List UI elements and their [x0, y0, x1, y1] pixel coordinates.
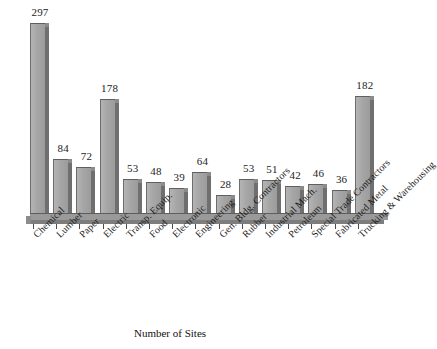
bar-front-face	[76, 167, 91, 213]
bar[interactable]	[332, 190, 355, 213]
bar-top-face	[231, 195, 235, 199]
bar-side-face	[184, 192, 188, 213]
bar-front-face	[308, 184, 323, 213]
bar-slot: 297	[30, 8, 53, 213]
bar-front-face	[146, 182, 161, 213]
bar-front-face	[30, 23, 45, 213]
bar-slot: 39	[169, 8, 192, 213]
bar[interactable]	[146, 182, 169, 213]
bar-front-face	[332, 190, 347, 213]
bar-value-label: 72	[70, 150, 102, 162]
bar-side-face	[323, 188, 327, 213]
x-axis-tick	[219, 224, 220, 229]
bar-value-label: 64	[186, 155, 218, 167]
bar-slot: 53	[239, 8, 262, 213]
bar[interactable]	[262, 180, 285, 213]
plot-area: 297847217853483964285351424636182	[30, 8, 388, 213]
bar-front-face	[239, 179, 254, 213]
bar[interactable]	[308, 184, 331, 213]
bar-side-face	[347, 194, 351, 213]
bar-side-face	[277, 184, 281, 213]
bar-value-label: 297	[24, 6, 56, 18]
bar-front-face	[262, 180, 277, 213]
bar-top-face	[347, 190, 351, 194]
bar[interactable]	[30, 23, 53, 213]
bar[interactable]	[285, 186, 308, 213]
bar-side-face	[91, 171, 95, 213]
bar-top-face	[138, 179, 142, 183]
bar-side-face	[68, 163, 72, 213]
bar-side-face	[45, 27, 49, 213]
bar-top-face	[300, 186, 304, 190]
bar-top-face	[184, 188, 188, 192]
bar[interactable]	[123, 179, 146, 213]
x-axis-tick	[79, 224, 80, 229]
x-axis-tick	[358, 224, 359, 229]
bar-top-face	[91, 167, 95, 171]
x-axis-tick	[195, 224, 196, 229]
axis-base-left-cap	[26, 216, 31, 224]
bar-slot: 36	[332, 8, 355, 213]
bar-top-face	[254, 179, 258, 183]
bar-top-face	[45, 23, 49, 27]
bar-side-face	[161, 186, 165, 213]
bar-front-face	[285, 186, 300, 213]
x-axis-tick	[335, 224, 336, 229]
bar-side-face	[300, 190, 304, 213]
bar-front-face	[53, 159, 68, 213]
bar-slot: 28	[216, 8, 239, 213]
axis-base-top	[30, 213, 388, 220]
bar-side-face	[254, 183, 258, 213]
bar-front-face	[100, 99, 115, 213]
x-axis-tick	[103, 224, 104, 229]
bar-side-face	[231, 199, 235, 213]
bar-value-label: 39	[163, 171, 195, 183]
x-axis-tick	[149, 224, 150, 229]
bar-top-face	[370, 96, 374, 100]
bar[interactable]	[216, 195, 239, 213]
x-axis-tick	[265, 224, 266, 229]
bar-slot: 182	[355, 8, 378, 213]
bar-top-face	[115, 99, 119, 103]
bar-front-face	[192, 172, 207, 213]
bar-slot: 178	[100, 8, 123, 213]
bar-side-face	[115, 103, 119, 213]
bar-side-face	[370, 100, 374, 213]
bar-front-face	[355, 96, 370, 213]
x-axis-tick	[172, 224, 173, 229]
bar-slot: 84	[53, 8, 76, 213]
bar-top-face	[207, 172, 211, 176]
bar-slot: 72	[76, 8, 99, 213]
bar-value-label: 178	[94, 82, 126, 94]
x-axis-title: Number of Sites	[0, 327, 340, 339]
x-axis-tick	[242, 224, 243, 229]
bar-value-label: 28	[210, 178, 242, 190]
bar-side-face	[138, 183, 142, 213]
bar-front-face	[216, 195, 231, 213]
bar-front-face	[169, 188, 184, 213]
bar[interactable]	[239, 179, 262, 213]
bar[interactable]	[169, 188, 192, 213]
bar-slot: 51	[262, 8, 285, 213]
x-axis-tick	[126, 224, 127, 229]
bar-value-label: 36	[326, 173, 358, 185]
bar[interactable]	[53, 159, 76, 213]
x-axis-tick	[311, 224, 312, 229]
x-axis-tick	[288, 224, 289, 229]
bar-value-label: 182	[349, 79, 381, 91]
bar[interactable]	[100, 99, 123, 213]
x-axis-tick	[33, 224, 34, 229]
x-axis-tick	[56, 224, 57, 229]
bar[interactable]	[355, 96, 378, 213]
bar[interactable]	[76, 167, 99, 213]
bar-front-face	[123, 179, 138, 213]
bar-slot: 53	[123, 8, 146, 213]
bar-slot: 42	[285, 8, 308, 213]
